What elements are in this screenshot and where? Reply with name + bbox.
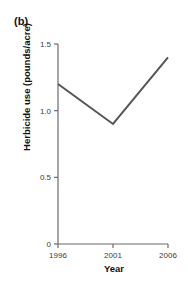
y-tick-label: 0 <box>47 240 52 249</box>
y-tick-label: 1.5 <box>40 40 52 49</box>
x-tick-label: 2006 <box>159 251 177 260</box>
x-axis-ticks: 199620012006 <box>49 244 177 260</box>
x-tick-label: 1996 <box>49 251 67 260</box>
y-tick-label: 1.0 <box>40 107 52 116</box>
y-tick-label: 0.5 <box>40 173 52 182</box>
x-tick-label: 2001 <box>104 251 122 260</box>
line-chart-plot: 00.51.01.5 199620012006 <box>0 0 188 290</box>
data-series-line <box>58 57 168 124</box>
figure-panel-b: (b) Herbicide use (pounds/acre) Year 00.… <box>0 0 188 290</box>
y-axis-ticks: 00.51.01.5 <box>40 40 58 249</box>
